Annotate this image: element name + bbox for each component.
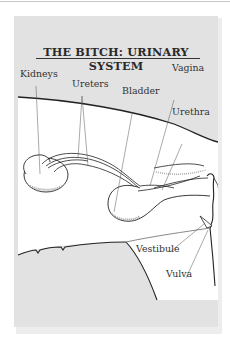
diagram-panel: THE BITCH: URINARY SYSTEM bbox=[14, 16, 218, 327]
label-kidneys: Kidneys bbox=[20, 68, 58, 79]
label-bladder: Bladder bbox=[122, 85, 160, 96]
label-vestibule: Vestibule bbox=[136, 243, 180, 254]
label-vagina: Vagina bbox=[172, 62, 204, 73]
top-rule bbox=[0, 1, 230, 2]
label-vulva: Vulva bbox=[166, 268, 192, 279]
label-urethra: Urethra bbox=[172, 106, 210, 117]
label-ureters: Ureters bbox=[72, 78, 109, 89]
